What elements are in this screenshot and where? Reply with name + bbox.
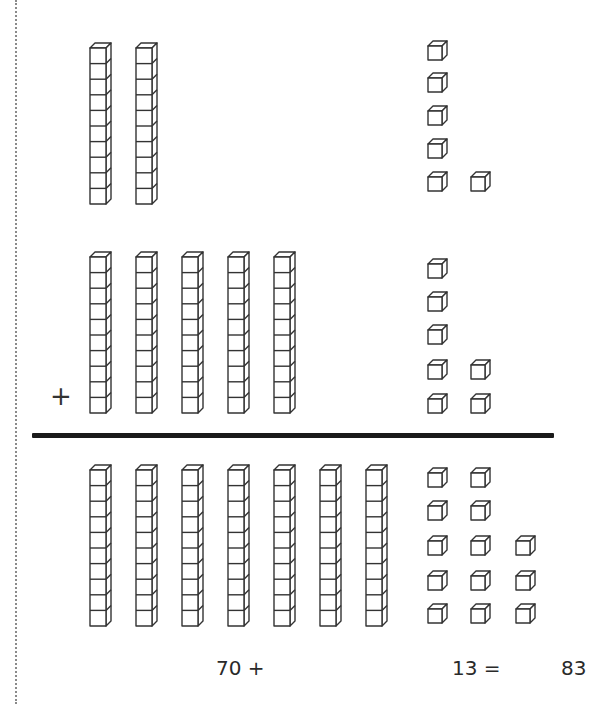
unit-cube-sum [516,536,535,555]
unit-cube-addend1 [428,73,447,92]
sum-divider-line [32,433,554,438]
unit-cube-sum [428,468,447,487]
base-ten-worksheet: + 70 + 13 = 83 [0,0,597,704]
equation-ones-part: 13 = [452,658,501,678]
unit-cube-sum [428,536,447,555]
unit-cube-sum [471,501,490,520]
ten-rod-addend2 [228,252,249,413]
base-ten-blocks [0,0,597,704]
ten-rod-addend2 [182,252,203,413]
unit-cube-addend2 [428,325,447,344]
ten-rod-addend1 [136,43,157,204]
equation-tens-part: 70 + [216,658,265,678]
unit-cube-sum [516,571,535,590]
unit-cube-sum [471,571,490,590]
unit-cube-addend2 [471,394,490,413]
ten-rod-sum [274,465,295,626]
unit-cube-addend2 [428,360,447,379]
unit-cube-sum [516,604,535,623]
ten-rod-sum [182,465,203,626]
unit-cube-addend2 [471,360,490,379]
unit-cube-addend2 [428,259,447,278]
ten-rod-sum [90,465,111,626]
ten-rod-addend2 [90,252,111,413]
unit-cube-addend1 [471,172,490,191]
unit-cube-addend1 [428,139,447,158]
unit-cube-sum [428,571,447,590]
unit-cube-sum [428,501,447,520]
ten-rod-sum [136,465,157,626]
unit-cube-addend1 [428,41,447,60]
unit-cube-addend2 [428,394,447,413]
plus-sign: + [50,383,72,409]
unit-cube-addend1 [428,172,447,191]
ten-rod-addend2 [274,252,295,413]
unit-cube-sum [428,604,447,623]
unit-cube-sum [471,604,490,623]
ten-rod-sum [320,465,341,626]
unit-cube-sum [471,536,490,555]
equation-result: 83 [561,658,586,678]
unit-cube-addend1 [428,106,447,125]
ten-rod-sum [366,465,387,626]
ten-rod-addend2 [136,252,157,413]
unit-cube-sum [471,468,490,487]
ten-rod-addend1 [90,43,111,204]
ten-rod-sum [228,465,249,626]
unit-cube-addend2 [428,292,447,311]
